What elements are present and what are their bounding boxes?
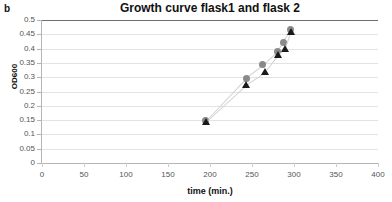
x-tick-mark (336, 163, 337, 167)
y-tick-mark (37, 63, 42, 64)
y-tick-mark (37, 120, 42, 121)
series-connector (205, 85, 246, 123)
x-tick-label: 100 (106, 170, 146, 179)
y-tick-label: 0.45 (1, 29, 35, 38)
x-tick-mark (84, 163, 85, 167)
x-tick-label: 350 (316, 170, 356, 179)
x-axis-label: time (min.) (42, 186, 378, 196)
y-tick-mark (37, 92, 42, 93)
y-tick-mark (37, 106, 42, 107)
panel-label: b (4, 3, 10, 14)
x-tick-mark (168, 163, 169, 167)
x-tick-mark (252, 163, 253, 167)
y-tick-mark (37, 34, 42, 35)
x-tick-mark (294, 163, 295, 167)
data-point (202, 118, 210, 125)
data-point (281, 45, 289, 52)
y-tick-label: 0.2 (1, 101, 35, 110)
y-tick-label: 0.5 (1, 15, 35, 24)
y-tick-label: 0.15 (1, 115, 35, 124)
y-tick-mark (37, 149, 42, 150)
x-tick-label: 200 (190, 170, 230, 179)
data-point (287, 28, 295, 35)
x-tick-mark (42, 163, 43, 167)
y-tick-mark (37, 20, 42, 21)
data-point (259, 61, 266, 68)
y-tick-label: 0.3 (1, 72, 35, 81)
y-tick-mark (37, 134, 42, 135)
series-layer (42, 20, 378, 163)
data-point (274, 51, 282, 58)
x-tick-label: 250 (232, 170, 272, 179)
x-tick-label: 150 (148, 170, 188, 179)
y-tick-label: 0.35 (1, 58, 35, 67)
y-tick-label: 0.4 (1, 44, 35, 53)
x-tick-mark (210, 163, 211, 167)
y-tick-label: 0.05 (1, 144, 35, 153)
x-tick-label: 300 (274, 170, 314, 179)
y-tick-label: 0.1 (1, 129, 35, 138)
x-tick-label: 400 (358, 170, 392, 179)
x-tick-mark (126, 163, 127, 167)
growth-curve-chart: b Growth curve flask1 and flask 2 OD600 … (0, 0, 392, 202)
x-tick-mark (378, 163, 379, 167)
y-tick-label: 0.25 (1, 87, 35, 96)
data-point (261, 68, 269, 75)
y-tick-label: 0 (1, 158, 35, 167)
x-tick-label: 50 (64, 170, 104, 179)
chart-title: Growth curve flask1 and flask 2 (42, 1, 378, 15)
y-tick-mark (37, 49, 42, 50)
data-point (242, 81, 250, 88)
y-tick-mark (37, 77, 42, 78)
x-tick-label: 0 (22, 170, 62, 179)
